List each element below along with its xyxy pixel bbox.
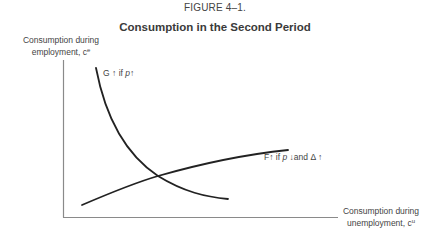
diagram-canvas: [0, 0, 430, 234]
f-variable-delta: Δ: [310, 152, 315, 162]
g-curve-label: G ↑ if p↑: [103, 68, 134, 78]
f-variable-p: p: [282, 152, 287, 162]
f-and-text: and: [294, 152, 308, 162]
f-if-text: if: [276, 152, 280, 162]
g-curve: [96, 68, 228, 199]
g-name: G: [103, 68, 110, 78]
f-curve: [82, 150, 288, 205]
up-arrow-icon: ↑: [318, 152, 322, 162]
up-arrow-icon: ↑: [269, 152, 273, 162]
up-arrow-icon: ↑: [130, 68, 134, 78]
g-if-text: if: [119, 68, 123, 78]
up-arrow-icon: ↑: [112, 68, 116, 78]
f-curve-label: F↑ if p ↓and Δ ↑: [264, 152, 322, 162]
